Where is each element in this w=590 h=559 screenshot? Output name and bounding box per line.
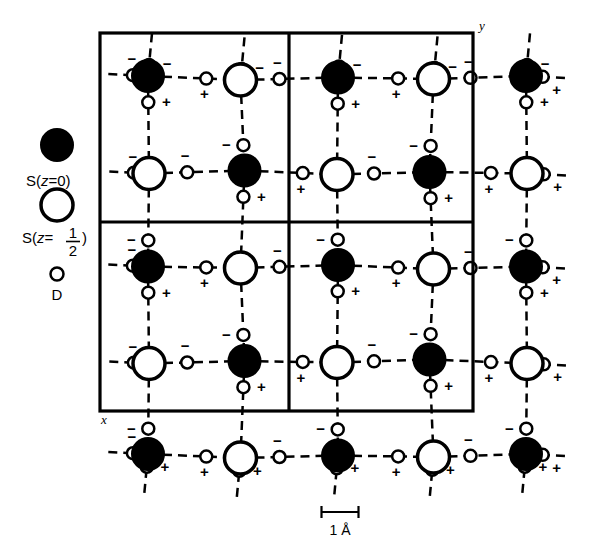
sign-positive: + <box>485 369 494 386</box>
sign-negative: − <box>129 148 138 165</box>
deuterium-atom <box>425 328 437 340</box>
sulfur-atom-zhalf <box>321 347 353 379</box>
sign-positive: + <box>552 271 561 288</box>
deuterium-atom <box>142 423 154 435</box>
sulfur-atom-zhalf <box>225 252 257 284</box>
deuterium-atom <box>332 423 344 435</box>
sign-negative: − <box>273 242 282 259</box>
deuterium-atom <box>181 166 193 178</box>
sign-negative: − <box>505 231 514 248</box>
legend-label-sulfur-z0: S(z=0) <box>26 172 71 189</box>
legend: S(z=0) S(z= 1 2 ) D <box>22 129 87 303</box>
structure-canvas: S(z=0) S(z= 1 2 ) D −+−+−+−−+−++−+−+−+−−… <box>0 0 590 559</box>
deuterium-atom <box>520 287 532 299</box>
sign-negative: − <box>448 58 457 75</box>
sign-negative: − <box>409 137 418 154</box>
deuterium-atom <box>237 381 249 393</box>
deuterium-atom <box>297 167 309 179</box>
sign-positive: + <box>162 284 171 301</box>
open-circle-icon <box>41 189 73 221</box>
sign-negative: − <box>222 136 231 153</box>
sign-positive: + <box>553 178 562 195</box>
deuterium-atom <box>237 329 249 341</box>
deuterium-atom <box>332 98 344 110</box>
legend-label-sulfur-zhalf: S(z= <box>22 229 54 246</box>
deuterium-atom <box>332 285 344 297</box>
sign-positive: + <box>162 93 171 110</box>
legend-fraction-numerator: 1 <box>69 224 77 241</box>
sign-negative: − <box>128 50 137 67</box>
sign-negative: − <box>181 147 190 164</box>
sign-negative: − <box>409 325 418 342</box>
deuterium-atom <box>368 168 380 180</box>
legend-label-sulfur-zhalf-close: ) <box>82 229 87 246</box>
sulfur-atom-z0 <box>510 438 542 470</box>
sign-positive: + <box>200 274 209 291</box>
sulfur-atom-z0 <box>414 344 446 376</box>
deuterium-atom <box>142 234 154 246</box>
deuterium-atom <box>142 96 154 108</box>
sulfur-atom-zhalf <box>418 441 450 473</box>
sulfur-atom-zhalf <box>225 64 257 96</box>
sulfur-atom-zhalf <box>133 348 165 380</box>
deuterium-atom <box>465 450 477 462</box>
sulfur-atom-z0 <box>322 440 354 472</box>
sulfur-atom-z0 <box>322 249 354 281</box>
deuterium-atom <box>274 451 286 463</box>
deuterium-atom <box>274 73 286 85</box>
sign-negative: − <box>255 59 264 76</box>
deuterium-atom <box>520 96 532 108</box>
sign-positive: + <box>257 378 266 395</box>
deuterium-atom <box>200 261 212 273</box>
deuterium-atom <box>485 167 497 179</box>
deuterium-atom <box>520 423 532 435</box>
sulfur-atom-zhalf <box>225 442 257 474</box>
legend-item-deuterium: D <box>51 268 64 304</box>
sulfur-atom-zhalf <box>133 158 165 190</box>
deuterium-atom <box>465 262 477 274</box>
sign-positive: + <box>392 85 401 102</box>
sign-negative: − <box>316 420 325 437</box>
sulfur-atom-z0 <box>132 438 164 470</box>
sign-positive: + <box>444 189 453 206</box>
deuterium-atom <box>392 72 404 84</box>
sign-positive: + <box>553 368 562 385</box>
scale-bar: 1 Å <box>321 506 359 538</box>
scale-bar-label: 1 Å <box>329 522 351 538</box>
sign-negative: − <box>541 55 550 72</box>
sign-negative: − <box>163 55 172 72</box>
sign-positive: + <box>485 180 494 197</box>
deuterium-atom <box>425 380 437 392</box>
sign-positive: + <box>392 274 401 291</box>
deuterium-atom <box>520 234 532 246</box>
sign-positive: + <box>552 459 561 476</box>
sulfur-atom-zhalf <box>321 159 353 191</box>
sign-negative: − <box>273 432 282 449</box>
sulfur-atom-z0 <box>510 60 542 92</box>
sign-negative: − <box>127 420 136 437</box>
sign-negative: − <box>368 336 377 353</box>
sign-negative: − <box>129 338 138 355</box>
sign-positive: + <box>351 282 360 299</box>
sign-positive: + <box>296 369 305 386</box>
sign-positive: + <box>446 461 455 478</box>
sign-negative: − <box>181 337 190 354</box>
legend-item-sulfur-z0: S(z=0) <box>26 129 73 189</box>
sign-positive: + <box>540 284 549 301</box>
sulfur-atom-zhalf <box>511 158 543 190</box>
sign-positive: + <box>253 462 262 479</box>
sign-negative: − <box>368 148 377 165</box>
deuterium-atom <box>392 262 404 274</box>
sign-negative: − <box>464 431 473 448</box>
sign-positive: + <box>552 81 561 98</box>
sign-negative: − <box>127 231 136 248</box>
sign-positive: + <box>540 93 549 110</box>
crystal-structure-figure: S(z=0) S(z= 1 2 ) D −+−+−+−−+−++−+−+−+−−… <box>0 0 590 559</box>
deuterium-atom <box>425 140 437 152</box>
deuterium-atom <box>142 287 154 299</box>
filled-circle-icon <box>41 129 73 161</box>
sign-positive: + <box>296 180 305 197</box>
axis-label-x: x <box>100 412 107 427</box>
sign-negative: − <box>316 231 325 248</box>
sign-positive: + <box>392 463 401 480</box>
